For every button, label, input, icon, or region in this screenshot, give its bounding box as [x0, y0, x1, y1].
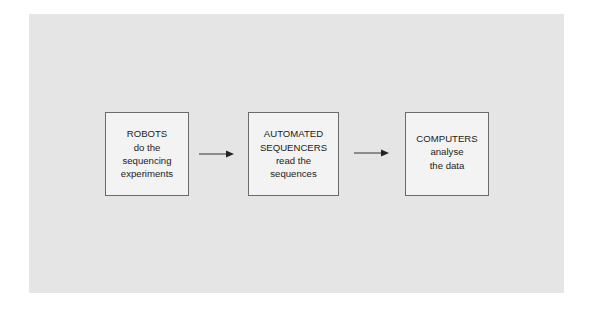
- step-box-computers: COMPUTERS analyse the data: [405, 112, 489, 196]
- step-label-line: COMPUTERS: [416, 132, 477, 145]
- step-label-line: analyse: [430, 145, 463, 158]
- arrow-head: [226, 151, 234, 158]
- step-label-line: the data: [430, 159, 465, 172]
- step-label-line: do the: [134, 141, 161, 154]
- step-box-automated-sequencers: AUTOMATED SEQUENCERS read the sequences: [248, 112, 339, 196]
- step-label-line: sequencing: [122, 154, 171, 167]
- arrow-head: [381, 150, 389, 157]
- step-label-line: sequences: [270, 167, 316, 180]
- step-label-line: experiments: [121, 167, 173, 180]
- step-label-line: SEQUENCERS: [260, 141, 327, 154]
- arrow-right-icon: [199, 149, 235, 159]
- step-label-line: AUTOMATED: [264, 127, 323, 140]
- step-label-line: read the: [276, 154, 311, 167]
- step-box-robots: ROBOTS do the sequencing experiments: [105, 112, 189, 196]
- arrow-right-icon: [354, 148, 390, 158]
- step-label-line: ROBOTS: [127, 127, 168, 140]
